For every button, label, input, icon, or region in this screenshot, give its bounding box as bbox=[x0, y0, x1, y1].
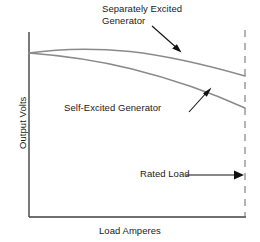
chart-canvas bbox=[0, 0, 260, 242]
annotation-self-excited-generator: Self-Excited Generator bbox=[64, 102, 161, 114]
separately-excited-curve bbox=[29, 49, 245, 76]
separately-excited-arrow bbox=[152, 26, 182, 53]
x-axis-label: Load Amperes bbox=[99, 225, 161, 237]
annotation-separately-line1: Separately Excited bbox=[102, 3, 182, 14]
annotation-separately-excited-generator: Separately ExcitedGenerator bbox=[102, 3, 182, 26]
self-excited-arrow bbox=[189, 88, 212, 113]
annotation-separately-line2: Generator bbox=[102, 15, 145, 26]
y-axis-label: Output Volts bbox=[17, 87, 29, 159]
rated-load-arrow bbox=[186, 171, 244, 180]
self-excited-curve bbox=[29, 53, 245, 108]
annotation-rated-load: Rated Load bbox=[140, 168, 190, 180]
generator-voltage-regulation-chart: Separately ExcitedGenerator Self-Excited… bbox=[0, 0, 260, 242]
